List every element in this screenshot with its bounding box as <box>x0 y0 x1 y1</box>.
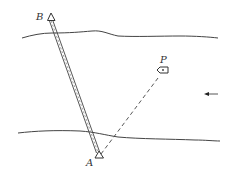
river-diagram: B P A <box>0 0 232 183</box>
current-arrow-icon <box>204 92 218 96</box>
line-ab <box>50 21 101 153</box>
top-river-bank <box>22 31 218 38</box>
triangle-b-icon <box>48 13 56 21</box>
line-ap <box>101 78 158 154</box>
label-b: B <box>35 11 43 22</box>
bottom-river-bank <box>18 131 220 141</box>
boat-icon <box>157 67 168 73</box>
label-a: A <box>85 157 93 168</box>
label-p: P <box>159 54 167 65</box>
